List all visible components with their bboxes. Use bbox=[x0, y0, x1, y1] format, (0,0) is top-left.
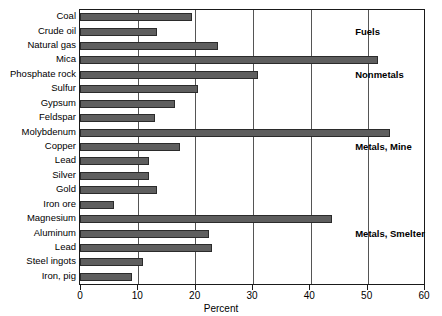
bar bbox=[80, 129, 390, 137]
category-label: Molybdenum bbox=[0, 127, 76, 137]
x-tick-label: 60 bbox=[418, 290, 429, 301]
category-label: Aluminum bbox=[0, 228, 76, 238]
category-label: Steel ingots bbox=[0, 256, 76, 266]
category-label: Coal bbox=[0, 11, 76, 21]
category-label: Lead bbox=[0, 155, 76, 165]
bar bbox=[80, 143, 180, 151]
bar bbox=[80, 71, 258, 79]
bar bbox=[80, 172, 149, 180]
bar bbox=[80, 56, 378, 64]
category-label: Mica bbox=[0, 54, 76, 64]
x-tick-label: 30 bbox=[246, 290, 257, 301]
x-axis-ticks bbox=[0, 285, 442, 291]
x-axis-title: Percent bbox=[0, 303, 442, 314]
category-label: Copper bbox=[0, 141, 76, 151]
category-label: Silver bbox=[0, 170, 76, 180]
bar bbox=[80, 28, 157, 36]
category-axis-labels: CoalCrude oilNatural gasMicaPhosphate ro… bbox=[0, 9, 76, 285]
group-annotation: Nonmetals bbox=[355, 69, 404, 80]
bar bbox=[80, 85, 198, 93]
group-annotation: Metals, Smelter bbox=[355, 228, 425, 239]
category-label: Phosphate rock bbox=[0, 69, 76, 79]
group-annotation: Fuels bbox=[355, 26, 380, 37]
bar bbox=[80, 42, 218, 50]
bar bbox=[80, 273, 132, 281]
category-label: Crude oil bbox=[0, 26, 76, 36]
x-tick-label: 40 bbox=[304, 290, 315, 301]
x-tick-label: 20 bbox=[189, 290, 200, 301]
category-label: Feldspar bbox=[0, 112, 76, 122]
category-label: Iron ore bbox=[0, 199, 76, 209]
category-label: Natural gas bbox=[0, 40, 76, 50]
bar bbox=[80, 114, 155, 122]
category-label: Gold bbox=[0, 184, 76, 194]
bar bbox=[80, 258, 143, 266]
bar bbox=[80, 244, 212, 252]
bar-chart: CoalCrude oilNatural gasMicaPhosphate ro… bbox=[0, 0, 442, 316]
bar bbox=[80, 100, 175, 108]
x-tick-label: 50 bbox=[361, 290, 372, 301]
x-tick-label: 0 bbox=[77, 290, 83, 301]
category-label: Lead bbox=[0, 242, 76, 252]
bar bbox=[80, 157, 149, 165]
bar bbox=[80, 201, 114, 209]
bar bbox=[80, 215, 332, 223]
bar bbox=[80, 230, 209, 238]
group-annotation: Metals, Mine bbox=[355, 141, 412, 152]
x-tick-label: 10 bbox=[132, 290, 143, 301]
category-label: Gypsum bbox=[0, 98, 76, 108]
bar bbox=[80, 13, 192, 21]
category-label: Iron, pig bbox=[0, 271, 76, 281]
category-label: Sulfur bbox=[0, 83, 76, 93]
bar bbox=[80, 186, 157, 194]
category-label: Magnesium bbox=[0, 213, 76, 223]
